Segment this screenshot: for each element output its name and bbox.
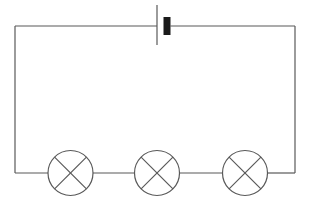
- circuit-diagram-canvas: [0, 0, 310, 205]
- lamp-icon-2: [135, 151, 180, 196]
- circuit-schematic: [0, 0, 310, 205]
- battery-positive-plate: [164, 17, 171, 35]
- lamp-icon-3: [223, 151, 268, 196]
- lamp-group: [48, 151, 268, 196]
- lamp-icon-1: [48, 151, 93, 196]
- battery-icon: [157, 5, 171, 45]
